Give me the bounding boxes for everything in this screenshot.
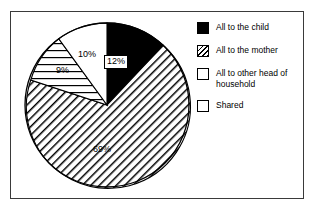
- legend-swatch-open-square-icon: [197, 100, 209, 112]
- legend-swatch-open-square-icon: [197, 68, 209, 80]
- legend-item-all-to-other-head-of-household[interactable]: All to other head of household: [197, 68, 303, 89]
- pie-label-all-to-the-child: 12%: [104, 55, 128, 69]
- legend-label-all-to-other-head-of-household: All to other head of household: [216, 68, 303, 89]
- legend-swatch-diagonal-hatch-icon: [197, 45, 209, 57]
- pie-svg: [14, 15, 194, 195]
- legend-label-shared: Shared: [216, 100, 243, 111]
- pie-label-all-to-the-mother: 69%: [93, 145, 111, 154]
- pie-label-shared: 10%: [78, 50, 96, 59]
- legend-swatch-solid-black-icon: [197, 22, 209, 34]
- pie-label-all-to-other-head-of-household: 9%: [56, 66, 69, 75]
- legend-item-shared[interactable]: Shared: [197, 100, 303, 112]
- legend-label-all-to-the-mother: All to the mother: [216, 45, 278, 56]
- legend-item-all-to-the-child[interactable]: All to the child: [197, 22, 303, 34]
- legend-item-all-to-the-mother[interactable]: All to the mother: [197, 45, 303, 57]
- figure: 12% 69% 9% 10% All to the child All to t…: [0, 0, 317, 210]
- legend: All to the child All to the mother All t…: [197, 22, 303, 123]
- legend-label-all-to-the-child: All to the child: [216, 22, 269, 33]
